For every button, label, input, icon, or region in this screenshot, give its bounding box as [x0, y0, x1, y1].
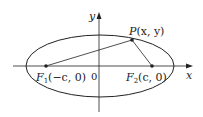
x-axis-arrow-icon [186, 64, 193, 69]
segment-f1-p [46, 40, 132, 66]
point-p-label: P(x, y) [128, 25, 164, 38]
ellipse-diagram: y x 0 P(x, y) F1(−c, 0) F2(c, 0) [0, 0, 203, 117]
focus-f1-point [44, 64, 48, 68]
segment-p-f2 [132, 40, 152, 66]
x-axis-label: x [186, 69, 193, 82]
focus-f2-point [150, 64, 154, 68]
y-axis-label: y [88, 10, 96, 23]
point-p [130, 38, 134, 42]
focus-f1-label: F1(−c, 0) [35, 71, 86, 85]
y-axis-arrow-icon [97, 12, 102, 19]
focus-f2-label: F2(c, 0) [125, 71, 167, 85]
origin-label: 0 [91, 71, 97, 82]
